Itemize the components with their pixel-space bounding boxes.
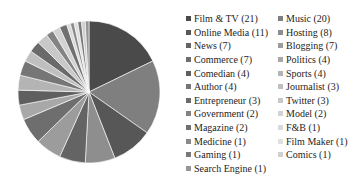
legend-item: Medicine (1) [186, 134, 278, 148]
legend-swatch-icon [186, 30, 191, 35]
legend-item: Model (2) [278, 107, 358, 121]
legend-item-label: Hosting (8) [286, 27, 332, 38]
legend-item: Gaming (1) [186, 148, 278, 162]
legend-item: Politics (4) [278, 53, 358, 67]
legend-item: Film & TV (21) [186, 12, 278, 26]
legend-swatch-icon [278, 57, 283, 62]
legend-swatch-icon [186, 71, 191, 76]
legend-item-label: Music (20) [286, 13, 330, 24]
legend-item-label: Comics (1) [286, 149, 331, 160]
legend-item: News (7) [186, 39, 278, 53]
legend-item-label: Twitter (3) [286, 95, 329, 106]
legend-item: Comics (1) [278, 148, 358, 162]
legend-column-left: Film & TV (21)Online Media (11)News (7)C… [186, 12, 278, 175]
pie-chart-svg [18, 21, 160, 163]
pie-chart-figure: Film & TV (21)Online Media (11)News (7)C… [0, 0, 358, 177]
legend-swatch-icon [186, 84, 191, 89]
legend-item: Twitter (3) [278, 94, 358, 108]
legend-item-label: Commerce (7) [194, 54, 252, 65]
legend-item-label: Sports (4) [286, 68, 326, 79]
legend-swatch-icon [278, 98, 283, 103]
legend-item-label: Medicine (1) [194, 136, 246, 147]
legend-swatch-icon [186, 166, 191, 171]
legend-swatch-icon [186, 98, 191, 103]
legend-item: F&B (1) [278, 121, 358, 135]
legend-item-label: Author (4) [194, 81, 237, 92]
legend-item-label: Search Engine (1) [194, 163, 266, 174]
legend-swatch-icon [186, 16, 191, 21]
legend-item: Entrepreneur (3) [186, 94, 278, 108]
legend-swatch-icon [278, 43, 283, 48]
legend-swatch-icon [278, 111, 283, 116]
legend-item: Film Maker (1) [278, 134, 358, 148]
legend-swatch-icon [278, 71, 283, 76]
legend-item: Online Media (11) [186, 26, 278, 40]
legend-swatch-icon [186, 125, 191, 130]
legend-swatch-icon [278, 30, 283, 35]
legend-swatch-icon [278, 139, 283, 144]
legend-item: Hosting (8) [278, 26, 358, 40]
legend-swatch-icon [186, 43, 191, 48]
legend-item-label: Film & TV (21) [194, 13, 258, 24]
legend-swatch-icon [186, 57, 191, 62]
legend-item-label: Online Media (11) [194, 27, 268, 38]
legend-item-label: Film Maker (1) [286, 136, 348, 147]
legend-item-label: Blogging (7) [286, 40, 337, 51]
legend-item-label: Magazine (2) [194, 122, 248, 133]
legend-swatch-icon [186, 152, 191, 157]
legend-item-label: Comedian (4) [194, 68, 249, 79]
legend-item: Sports (4) [278, 66, 358, 80]
legend-item-label: Model (2) [286, 108, 326, 119]
legend-swatch-icon [186, 111, 191, 116]
legend-item: Journalist (3) [278, 80, 358, 94]
legend-item: Comedian (4) [186, 66, 278, 80]
legend-item: Search Engine (1) [186, 162, 278, 176]
chart-legend: Film & TV (21)Online Media (11)News (7)C… [186, 12, 358, 170]
legend-swatch-icon [278, 152, 283, 157]
legend-swatch-icon [278, 16, 283, 21]
pie-slice-group [18, 21, 160, 163]
legend-item: Author (4) [186, 80, 278, 94]
legend-item: Music (20) [278, 12, 358, 26]
legend-column-right: Music (20)Hosting (8)Blogging (7)Politic… [278, 12, 358, 162]
legend-item-label: Politics (4) [286, 54, 330, 65]
legend-item-label: Government (2) [194, 108, 258, 119]
legend-item-label: Entrepreneur (3) [194, 95, 260, 106]
legend-item: Magazine (2) [186, 121, 278, 135]
legend-swatch-icon [278, 84, 283, 89]
legend-swatch-icon [278, 125, 283, 130]
legend-swatch-icon [186, 139, 191, 144]
legend-item-label: F&B (1) [286, 122, 320, 133]
legend-item: Commerce (7) [186, 53, 278, 67]
legend-item-label: Journalist (3) [286, 81, 339, 92]
legend-item-label: News (7) [194, 40, 231, 51]
pie-chart-plot-area [18, 21, 160, 163]
legend-item: Blogging (7) [278, 39, 358, 53]
legend-item: Government (2) [186, 107, 278, 121]
legend-item-label: Gaming (1) [194, 149, 240, 160]
